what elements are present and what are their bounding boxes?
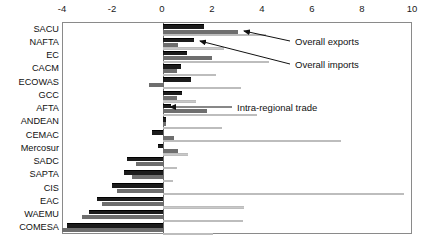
y-axis-category-labels: SACUNAFTAECCACMECOWASGCCAFTAANDEANCEMACM…	[0, 0, 59, 245]
category-label-ec: EC	[46, 51, 59, 60]
category-label-andean: ANDEAN	[21, 117, 59, 126]
category-label-ecowas: ECOWAS	[19, 77, 60, 86]
bar-overall-imports-eac	[102, 202, 163, 206]
bar-intra-regional-trade-cis	[163, 193, 404, 195]
bar-overall-imports-afta	[163, 109, 207, 113]
bar-overall-exports-cis	[112, 183, 163, 188]
bar-overall-imports-sacu	[163, 30, 238, 34]
category-label-sapta: SAPTA	[30, 170, 59, 179]
bar-overall-exports-nafta	[163, 38, 194, 43]
category-label-cemac: CEMAC	[26, 130, 59, 139]
bar-overall-imports-ecowas	[149, 83, 163, 87]
bar-overall-imports-cis	[117, 189, 163, 193]
bar-overall-exports-andean	[163, 117, 166, 122]
category-label-cacm: CACM	[32, 64, 59, 73]
bar-overall-imports-gcc	[163, 96, 177, 100]
bar-intra-regional-trade-mercosur	[163, 153, 188, 155]
bar-overall-imports-mercosur	[163, 149, 178, 153]
bar-overall-exports-afta	[163, 104, 171, 109]
bar-overall-imports-cacm	[163, 69, 177, 73]
bar-chart: -4-20246810 SACUNAFTAECCACMECOWASGCCAFTA…	[0, 0, 422, 245]
x-tick-label: 6	[309, 3, 314, 14]
bar-overall-imports-andean	[163, 122, 166, 126]
bar-overall-imports-ec	[163, 56, 212, 60]
x-tick-label: 2	[209, 3, 214, 14]
bar-overall-imports-sadc	[136, 162, 164, 166]
bar-overall-exports-mercosur	[158, 144, 163, 149]
bar-intra-regional-trade-nafta	[163, 47, 224, 49]
bar-intra-regional-trade-ec	[163, 61, 269, 63]
bar-overall-exports-comesa	[67, 223, 163, 228]
bar-intra-regional-trade-ecowas	[163, 87, 241, 89]
category-label-mercosur: Mercosur	[21, 143, 59, 152]
bar-overall-exports-ec	[163, 51, 187, 56]
category-label-nafta: NAFTA	[30, 37, 59, 46]
bar-overall-exports-sapta	[124, 170, 163, 175]
x-tick-label: 10	[407, 3, 418, 14]
category-label-comesa: COMESA	[19, 223, 59, 232]
category-label-eac: EAC	[40, 196, 59, 205]
bar-intra-regional-trade-sapta	[163, 180, 173, 182]
bar-overall-exports-sacu	[163, 24, 204, 29]
bar-intra-regional-trade-gcc	[163, 100, 196, 102]
x-tick-label: 4	[259, 3, 264, 14]
bar-intra-regional-trade-cemac	[163, 140, 341, 142]
x-tick-label: -4	[58, 3, 66, 14]
bar-overall-imports-waemu	[82, 215, 163, 219]
category-label-sacu: SACU	[33, 24, 59, 33]
bar-overall-imports-comesa	[62, 228, 163, 232]
bar-intra-regional-trade-comesa	[163, 233, 213, 235]
bar-intra-regional-trade-sacu	[163, 34, 266, 36]
bar-overall-imports-nafta	[163, 43, 178, 47]
category-label-sadc: SADC	[33, 157, 59, 166]
x-tick-label: -2	[108, 3, 116, 14]
category-label-afta: AFTA	[36, 104, 59, 113]
bar-overall-exports-ecowas	[163, 77, 191, 82]
x-tick-label: 0	[159, 3, 164, 14]
bar-intra-regional-trade-eac	[163, 206, 244, 208]
bar-overall-exports-cacm	[163, 64, 181, 69]
bar-overall-exports-waemu	[89, 210, 163, 215]
annotation-overall-exports: Overall exports	[295, 36, 359, 47]
bar-intra-regional-trade-andean	[163, 127, 222, 129]
annotation-intra-regional-trade: Intra-regional trade	[237, 102, 317, 113]
bar-intra-regional-trade-cacm	[163, 74, 216, 76]
bar-overall-exports-eac	[97, 197, 163, 202]
bar-intra-regional-trade-afta	[163, 114, 257, 116]
bar-intra-regional-trade-waemu	[163, 220, 243, 222]
plot-area	[62, 22, 412, 234]
x-tick-label: 8	[359, 3, 364, 14]
annotation-overall-imports: Overall imports	[295, 59, 359, 70]
category-label-waemu: WAEMU	[24, 210, 59, 219]
bar-overall-exports-sadc	[127, 157, 163, 162]
category-label-cis: CIS	[44, 183, 59, 192]
bar-overall-exports-cemac	[152, 130, 163, 135]
bar-intra-regional-trade-sadc	[163, 167, 177, 169]
bar-overall-imports-cemac	[163, 136, 174, 140]
bar-overall-imports-sapta	[132, 175, 163, 179]
category-label-gcc: GCC	[39, 90, 59, 99]
bar-overall-exports-gcc	[163, 91, 182, 96]
